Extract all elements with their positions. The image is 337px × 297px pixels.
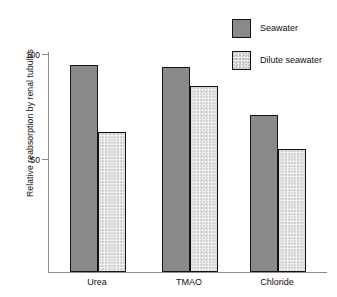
legend-label-dilute-seawater: Dilute seawater: [260, 55, 322, 66]
bar-chloride-seawater: [250, 115, 278, 272]
bar-urea-seawater: [70, 65, 98, 273]
x-tick-label-urea: Urea: [57, 277, 137, 288]
y-tick-50: [42, 159, 49, 160]
x-axis-line: [48, 272, 327, 273]
bar-tmao-seawater: [162, 67, 190, 272]
legend-item-seawater: Seawater: [232, 18, 337, 38]
seawater-swatch-icon: [232, 19, 251, 38]
x-tick-label-tmao: TMAO: [149, 277, 229, 288]
legend-item-dilute-seawater: Dilute seawater: [232, 50, 337, 70]
dilute-seawater-swatch-icon: [232, 51, 251, 70]
y-tick-100: [42, 54, 49, 55]
bar-chart: Seawater Dilute seawater 100 50 Relative…: [0, 0, 337, 297]
legend-label-seawater: Seawater: [260, 23, 298, 34]
y-axis-line: [48, 52, 49, 273]
bar-urea-dilute-seawater: [98, 132, 126, 272]
bar-tmao-dilute-seawater: [190, 86, 218, 273]
y-axis-title: Relative reabsorption by renal tubules: [25, 23, 35, 223]
bar-chloride-dilute-seawater: [278, 149, 306, 273]
x-tick-label-chloride: Chloride: [237, 277, 317, 288]
chart-legend: Seawater Dilute seawater: [232, 18, 337, 82]
